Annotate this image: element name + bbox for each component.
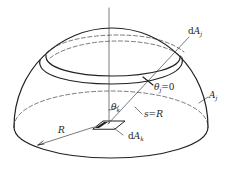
radius-line xyxy=(38,127,94,145)
dAj-normal-tick xyxy=(143,77,153,85)
label-dAk: dAk xyxy=(128,132,144,142)
base-ellipse-front xyxy=(14,127,208,158)
ring-inner-ellipse xyxy=(46,55,180,76)
label-Aj: Aj xyxy=(209,91,217,101)
dAk-patch-shade xyxy=(95,122,108,128)
radius-arrowhead xyxy=(38,141,44,145)
hemisphere-diagram xyxy=(0,0,237,169)
label-R: R xyxy=(58,126,65,135)
s-leader xyxy=(135,107,142,114)
upper-cap-dashed-1 xyxy=(46,35,184,53)
label-dAj: dAj xyxy=(188,27,202,37)
label-s-equals-R: s=R xyxy=(144,110,163,119)
dAk-leader xyxy=(114,128,123,135)
label-theta-k: θk xyxy=(111,103,120,113)
upper-cap-dashed-2 xyxy=(50,41,182,58)
label-theta-j: θj=0 xyxy=(154,83,175,93)
